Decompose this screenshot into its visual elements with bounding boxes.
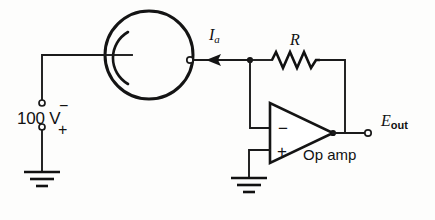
cathode-to-supply-wire — [42, 55, 105, 100]
resistor-zigzag-icon — [272, 52, 320, 68]
opamp-label: Op amp — [303, 147, 356, 162]
output-terminal — [365, 130, 371, 136]
circuit-diagram: Ia R − 100 V + − + Op amp Eout — [0, 0, 435, 220]
phototube-cathode-icon — [113, 32, 128, 84]
supply-positive-sign: + — [58, 122, 67, 138]
inverting-input-sign: − — [278, 120, 288, 137]
output-voltage-subscript: out — [391, 119, 408, 131]
output-voltage-label: Eout — [381, 113, 408, 131]
resistor-label: R — [290, 32, 300, 48]
output-voltage-symbol: E — [381, 112, 391, 129]
feedback-wire — [320, 60, 345, 133]
noninverting-ground-icon — [231, 178, 267, 192]
anode-current-subscript: a — [214, 33, 220, 45]
supply-ground-icon — [24, 172, 60, 186]
noninverting-input-wire — [249, 150, 270, 178]
noninverting-input-sign: + — [277, 143, 287, 160]
anode-current-label: Ia — [209, 27, 220, 45]
supply-negative-terminal — [39, 100, 45, 106]
inverting-input-wire — [250, 60, 270, 128]
supply-voltage-label: 100 V — [17, 110, 60, 127]
